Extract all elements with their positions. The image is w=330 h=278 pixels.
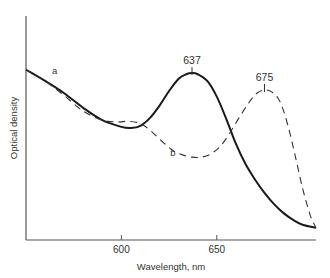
series-label-a: a [52,65,58,76]
x-tick-label: 650 [208,244,225,255]
x-tick-label: 600 [113,244,130,255]
x-axis-label: Wavelength, nm [137,261,205,272]
series-labels: ab [52,65,176,158]
y-axis-label: Optical density [8,97,19,160]
axes [26,16,316,240]
series-label-b: b [170,147,175,158]
x-ticks: 600650 [113,235,226,255]
peak-label: 637 [183,54,201,66]
absorption-spectrum-chart: 600650 637675 ab Wavelength, nm Optical … [0,0,330,278]
peak-label: 675 [256,71,274,83]
